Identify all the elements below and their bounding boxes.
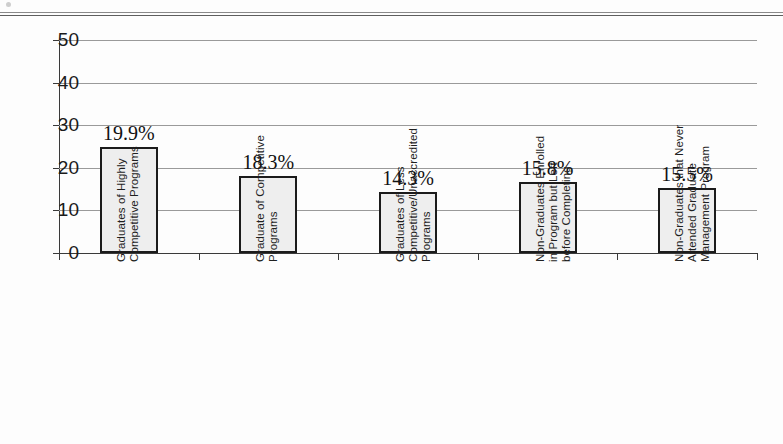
page-top-rule-upper <box>0 12 783 13</box>
gridline-40 <box>59 83 757 84</box>
x-category-label-line: Competitive Programs <box>128 146 141 262</box>
x-category-label-line: Graduate of Competitive <box>254 135 267 262</box>
scan-speck <box>6 2 11 7</box>
x-category-label-1: Graduates of HighlyCompetitive Programs <box>115 146 141 262</box>
x-category-label-2: Graduate of CompetitivePrograms <box>254 135 280 262</box>
x-category-label-4: Non-Graduates Enrolledin Program but Lef… <box>534 136 573 262</box>
x-tick-4 <box>617 253 618 260</box>
x-tick-3 <box>478 253 479 260</box>
x-category-label-line: in Program but Left <box>547 136 560 262</box>
page-top-rule-lower <box>0 15 783 16</box>
x-category-label-line: Non-Graduates that Never <box>673 125 686 262</box>
x-category-label-line: Non-Graduates Enrolled <box>534 136 547 262</box>
x-category-label-line: Graduates of Highly <box>115 146 128 262</box>
x-category-label-line: Programs <box>267 135 280 262</box>
y-tick-label-20: 20 <box>39 158 79 177</box>
gridline-50 <box>59 40 757 41</box>
x-tick-5 <box>757 253 758 260</box>
x-category-label-line: Programs <box>420 128 433 262</box>
x-category-label-line: Competitive/Unaccredited <box>407 128 420 262</box>
y-tick-label-0: 0 <box>39 243 79 262</box>
x-tick-2 <box>338 253 339 260</box>
chart-page: 19.9%18.3%14.3%15.8%15.5% 01020304050 Gr… <box>0 0 783 444</box>
x-tick-1 <box>199 253 200 260</box>
x-category-label-5: Non-Graduates that NeverAttended Graduat… <box>673 125 712 262</box>
x-category-label-line: Graduates of Less <box>394 128 407 262</box>
y-tick-label-30: 30 <box>39 115 79 134</box>
x-category-label-line: before Completing <box>560 136 573 262</box>
bar-value-label-1: 19.9% <box>74 123 184 143</box>
x-category-label-line: Attended Graduate <box>686 125 699 262</box>
x-category-label-3: Graduates of LessCompetitive/Unaccredite… <box>394 128 433 262</box>
y-tick-label-50: 50 <box>39 30 79 49</box>
x-category-label-line: Management Program <box>699 125 712 262</box>
y-tick-label-40: 40 <box>39 73 79 92</box>
y-tick-label-10: 10 <box>39 200 79 219</box>
